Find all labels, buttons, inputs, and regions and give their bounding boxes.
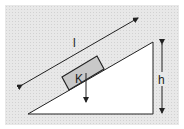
block-label: K	[75, 72, 83, 86]
length-label: l	[73, 36, 76, 50]
height-label: h	[158, 73, 165, 87]
incline-diagram: K l h	[0, 0, 184, 129]
diagram-canvas: K l h	[0, 0, 184, 129]
